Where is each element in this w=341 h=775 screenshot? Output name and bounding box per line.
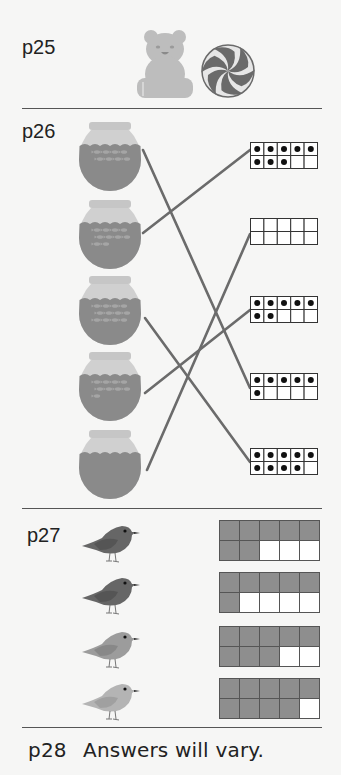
section-divider [22, 508, 322, 509]
answer-text: Answers will vary. [83, 738, 264, 762]
shaded-ten-frame [219, 678, 321, 720]
fishbowl [77, 122, 143, 194]
ten-frame [250, 218, 319, 246]
shaded-ten-frame [219, 520, 321, 562]
section-divider [22, 727, 322, 728]
section-label-p27: p27 [27, 524, 60, 547]
ten-frame [250, 373, 319, 401]
bird-icon [80, 574, 140, 616]
fishbowl [77, 430, 143, 502]
ten-frame [250, 296, 319, 324]
shaded-ten-frame [219, 572, 321, 614]
fishbowl [77, 352, 143, 424]
section-label-p28: p28 [28, 738, 67, 762]
ten-frame [250, 448, 319, 476]
ten-frame [250, 142, 319, 170]
bird-icon [80, 522, 140, 564]
shaded-ten-frame [219, 626, 321, 668]
bird-icon [80, 628, 140, 670]
bird-icon [80, 680, 140, 722]
fishbowl [77, 276, 143, 348]
fishbowl [77, 200, 143, 272]
